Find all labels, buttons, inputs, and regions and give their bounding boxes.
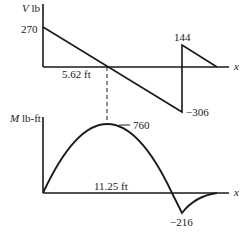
shear-zero-crossing-label: 5.62 ft <box>62 68 91 80</box>
shear-jump-label: 144 <box>174 31 191 43</box>
moment-curve <box>43 124 217 213</box>
moment-x-label: x <box>233 186 239 198</box>
shear-moment-diagram: V lb 270 144 −306 5.62 ft x M lb-ft 760 … <box>0 0 243 233</box>
moment-min-label: −216 <box>170 216 193 228</box>
moment-axis-label: M lb-ft <box>9 112 41 124</box>
shear-axis-label: V lb <box>22 2 41 14</box>
moment-diagram: M lb-ft 760 −216 11.25 ft x <box>9 112 239 228</box>
moment-max-label: 760 <box>133 119 150 131</box>
moment-zero-crossing-label: 11.25 ft <box>94 180 128 192</box>
shear-min-label: −306 <box>186 106 209 118</box>
shear-diagram: V lb 270 144 −306 5.62 ft x <box>21 2 239 118</box>
shear-x-label: x <box>233 60 239 72</box>
shear-max-label: 270 <box>21 23 38 35</box>
